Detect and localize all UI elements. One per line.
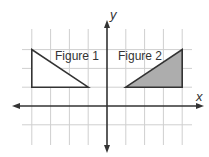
figure-1-label: Figure 1	[55, 49, 99, 63]
x-axis-label: x	[195, 89, 203, 104]
x-axis-arrow-left-icon	[12, 103, 20, 109]
coordinate-plane: x y Figure 1 Figure 2	[0, 0, 209, 157]
figure-2-label: Figure 2	[118, 49, 162, 63]
y-axis-arrow-down-icon	[104, 145, 110, 153]
y-axis-label: y	[109, 7, 118, 22]
